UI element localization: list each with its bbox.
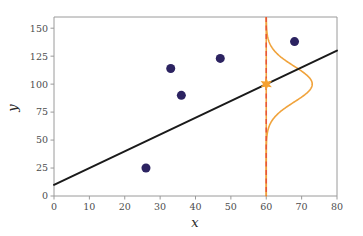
x-tick-label: 80 bbox=[331, 201, 343, 212]
x-tick-label: 40 bbox=[189, 201, 201, 212]
x-tick-label: 50 bbox=[225, 201, 237, 212]
x-tick-label: 70 bbox=[296, 201, 308, 212]
y-tick-label: 125 bbox=[30, 51, 48, 62]
data-point bbox=[166, 64, 175, 73]
data-point bbox=[290, 37, 299, 46]
y-axis-ticks: 0255075100125150 bbox=[30, 23, 54, 202]
data-point bbox=[216, 54, 225, 63]
y-tick-label: 0 bbox=[42, 190, 48, 201]
x-axis-label: x bbox=[191, 215, 199, 230]
chart-canvas: 01020304050607080 0255075100125150 x y bbox=[0, 0, 363, 236]
y-axis-label: y bbox=[5, 104, 20, 113]
x-tick-label: 60 bbox=[260, 201, 272, 212]
data-point bbox=[141, 164, 150, 173]
x-axis-ticks: 01020304050607080 bbox=[51, 196, 343, 212]
y-tick-label: 25 bbox=[36, 162, 48, 173]
scatter-plot-figure: 01020304050607080 0255075100125150 x y bbox=[0, 0, 363, 236]
x-tick-label: 0 bbox=[51, 201, 57, 212]
x-tick-label: 10 bbox=[83, 201, 95, 212]
x-tick-label: 20 bbox=[119, 201, 131, 212]
x-tick-label: 30 bbox=[154, 201, 166, 212]
data-point bbox=[177, 91, 186, 100]
y-tick-label: 50 bbox=[36, 134, 48, 145]
y-tick-label: 100 bbox=[30, 79, 48, 90]
y-tick-label: 150 bbox=[30, 23, 48, 34]
y-tick-label: 75 bbox=[36, 106, 48, 117]
